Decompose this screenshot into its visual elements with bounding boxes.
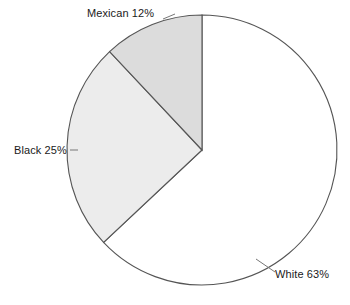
pie-label-black: Black 25% [14,144,67,156]
pie-label-white: White 63% [275,268,329,280]
pie-chart-figure: Mexican 12% Black 25% White 63% [0,0,350,305]
pie-label-mexican: Mexican 12% [87,7,154,19]
pie-slices [67,15,337,285]
